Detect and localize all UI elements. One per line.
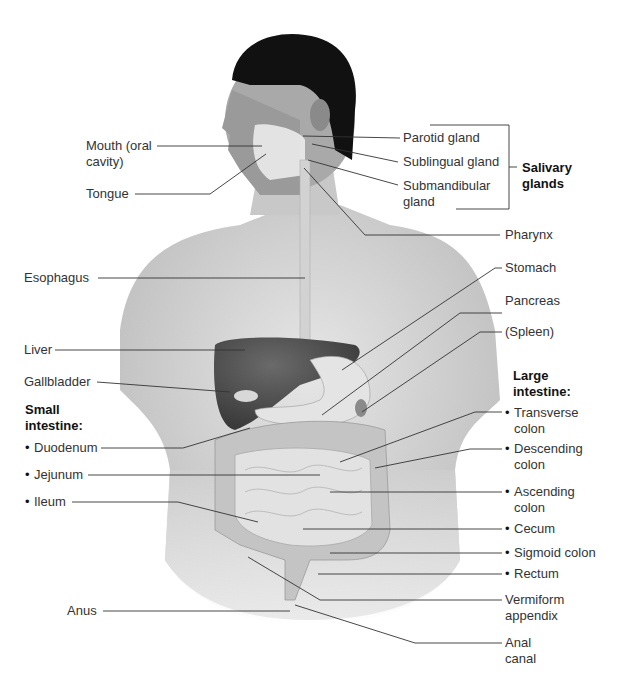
label-jejunum: Jejunum [25, 467, 83, 483]
label-vermiform-appendix: Vermiform appendix [505, 592, 564, 624]
label-sigmoid-colon: Sigmoid colon [505, 545, 596, 561]
label-esophagus: Esophagus [24, 270, 89, 286]
small-intestine-shape [235, 448, 372, 546]
label-ascending-colon-2: colon [505, 500, 545, 516]
label-rectum: Rectum [505, 566, 559, 582]
label-liver: Liver [24, 342, 52, 358]
label-duodenum: Duodenum [25, 440, 98, 456]
heading-salivary-glands: Salivary glands [522, 160, 572, 192]
label-cecum: Cecum [505, 521, 555, 537]
label-submandibular-gland: Submandibular gland [403, 178, 490, 210]
label-anus: Anus [67, 603, 97, 619]
label-ileum: Ileum [25, 494, 66, 510]
label-pancreas: Pancreas [505, 293, 560, 309]
label-transverse-colon: Transverse [505, 405, 579, 421]
digestive-system-illustration [0, 0, 622, 688]
heading-large-intestine: Large intestine: [513, 368, 571, 400]
gallbladder-shape [234, 390, 258, 402]
label-anal-canal: Anal canal [505, 635, 536, 667]
label-transverse-colon-2: colon [505, 421, 545, 437]
label-mouth: Mouth (oral cavity) [86, 138, 152, 170]
spleen-shape [355, 399, 367, 417]
label-spleen: (Spleen) [505, 324, 554, 340]
label-stomach: Stomach [505, 260, 556, 276]
label-ascending-colon: Ascending [505, 484, 575, 500]
heading-small-intestine: Small intestine: [25, 402, 83, 434]
label-descending-colon-2: colon [505, 457, 545, 473]
label-gallbladder: Gallbladder [24, 374, 91, 390]
label-pharynx: Pharynx [505, 227, 553, 243]
label-tongue: Tongue [86, 186, 129, 202]
esophagus-shape [300, 160, 310, 360]
label-descending-colon: Descending [505, 441, 583, 457]
label-parotid-gland: Parotid gland [403, 130, 480, 146]
label-sublingual-gland: Sublingual gland [403, 154, 499, 170]
